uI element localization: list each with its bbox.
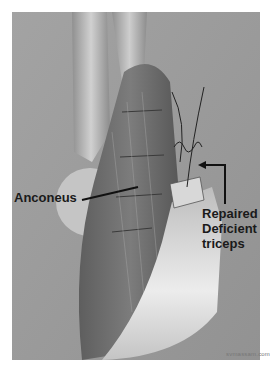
- image-credit: svmassam.com: [226, 351, 270, 357]
- label-line-1: Repaired: [202, 206, 258, 221]
- label-line-2: Deficient: [202, 221, 258, 236]
- elbow-illustration: [12, 12, 260, 360]
- label-line-3: triceps: [202, 236, 258, 251]
- label-repaired-triceps: Repaired Deficient triceps: [202, 206, 258, 251]
- figure-frame: Anconeus Repaired Deficient triceps svma…: [0, 0, 270, 365]
- label-anconeus: Anconeus: [14, 190, 77, 205]
